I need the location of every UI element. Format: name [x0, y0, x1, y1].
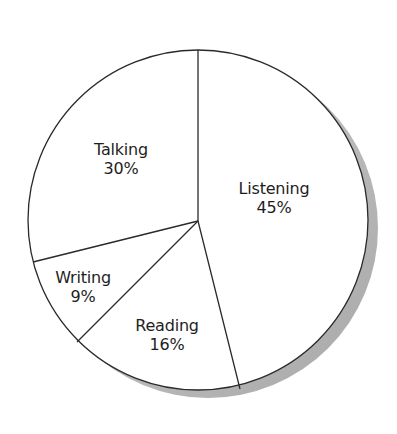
slice-name: Writing [55, 268, 111, 287]
pie-chart [0, 0, 397, 434]
slice-name: Talking [94, 140, 148, 159]
slice-label-talking: Talking 30% [94, 140, 148, 178]
slice-label-listening: Listening 45% [239, 179, 310, 217]
slice-percent: 30% [94, 159, 148, 178]
slice-label-writing: Writing 9% [55, 268, 111, 306]
slice-label-reading: Reading 16% [135, 316, 199, 354]
slice-percent: 45% [239, 198, 310, 217]
slice-percent: 16% [135, 335, 199, 354]
slice-percent: 9% [55, 287, 111, 306]
slice-name: Reading [135, 316, 199, 335]
slice-name: Listening [239, 179, 310, 198]
